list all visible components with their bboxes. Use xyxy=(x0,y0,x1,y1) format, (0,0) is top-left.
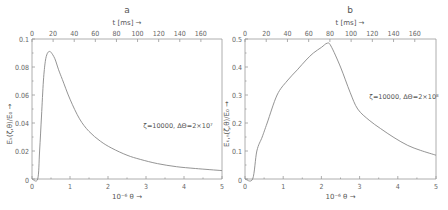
panel-b-y-tick-label: 0.5 xyxy=(232,36,242,44)
panel-a-xlabel: 10⁻⁶ θ → xyxy=(112,193,142,201)
panel-a-top-tick-label: 120 xyxy=(153,30,165,38)
panel-b-top-xlabel: t [ms] → xyxy=(336,19,365,27)
panel-b-xlabel: 10⁻⁶ θ → xyxy=(325,193,355,201)
panel-a-y-tick-label: 0.1 xyxy=(19,36,29,44)
panel-a-top-tick-label: 0 xyxy=(30,30,34,38)
panel-a-y-tick-label: 0 xyxy=(25,177,29,185)
panel-a-x-tick-label: 0 xyxy=(30,183,34,191)
panel-b-title: b xyxy=(347,5,353,15)
panel-b-x-tick-label: 4 xyxy=(396,183,400,191)
panel-a-y-tick-label: 0.04 xyxy=(15,120,29,128)
panel-b-x-tick-label: 0 xyxy=(243,183,247,191)
panel-b-top-tick-label: 80 xyxy=(326,30,334,38)
panel-a-x-tick-label: 3 xyxy=(144,183,148,191)
panel-b-top-tick-label: 60 xyxy=(305,30,313,38)
panel-a-x-tick-label: 1 xyxy=(68,183,72,191)
panel-a-top-tick-label: 40 xyxy=(70,30,78,38)
panel-a-top-tick-label: 160 xyxy=(195,30,207,38)
panel-b-x-tick-label: 1 xyxy=(281,183,285,191)
panel-a-top-tick-label: 60 xyxy=(91,30,99,38)
panel-a-top-tick-label: 80 xyxy=(112,30,120,38)
panel-b-ylabel: Eₖ,ₙ(ζ,θ)/E₀ → xyxy=(223,101,231,147)
panel-b-x-tick-label: 3 xyxy=(358,183,362,191)
figure: 01234500.020.040.060.080.102040608010012… xyxy=(0,0,448,210)
panel-a-series-line-energy xyxy=(32,51,222,181)
panel-b-top-tick-label: 0 xyxy=(243,30,247,38)
panel-b-top-tick-label: 140 xyxy=(388,30,400,38)
panel-a-y-tick-label: 0.06 xyxy=(15,92,29,100)
panel-a-y-tick-label: 0.02 xyxy=(15,148,29,156)
panel-b-top-tick-label: 120 xyxy=(366,30,378,38)
panel-b-top-tick-label: 40 xyxy=(283,30,291,38)
panel-a-x-tick-label: 5 xyxy=(220,183,224,191)
panel-b-top-tick-label: 20 xyxy=(262,30,270,38)
panel-b-x-tick-label: 5 xyxy=(434,183,438,191)
panel-b-y-tick-label: 0 xyxy=(238,177,242,185)
panel-a-top-xlabel: t [ms] → xyxy=(113,19,142,27)
panel-a-top-tick-label: 140 xyxy=(174,30,186,38)
panel-b-top-tick-label: 160 xyxy=(409,30,421,38)
panel-a-x-tick-label: 2 xyxy=(106,183,110,191)
panel-b-y-tick-label: 0.3 xyxy=(232,92,242,100)
panel-a-top-tick-label: 100 xyxy=(132,30,144,38)
panel-a-y-tick-label: 0.08 xyxy=(15,64,29,72)
panel-b-top-tick-label: 100 xyxy=(345,30,357,38)
panel-b-y-tick-label: 0.1 xyxy=(232,148,242,156)
panel-b-y-tick-label: 0.4 xyxy=(232,64,242,72)
panel-a-top-tick-label: 20 xyxy=(49,30,57,38)
panel-a-title: a xyxy=(124,5,130,15)
panel-b-series-line-energy xyxy=(245,43,436,181)
panel-a-ylabel: Eₖ(ζ,θ)/E₀ → xyxy=(6,103,14,144)
panel-a-annotation: ζ=10000, ΔΘ=2×10⁷ xyxy=(143,122,213,130)
panel-b-x-tick-label: 2 xyxy=(319,183,323,191)
panel-a-x-tick-label: 4 xyxy=(182,183,186,191)
panel-b-annotation: ζ=10000, ΔΘ=2×10⁸ xyxy=(369,93,439,101)
panel-b-y-tick-label: 0.2 xyxy=(232,120,242,128)
